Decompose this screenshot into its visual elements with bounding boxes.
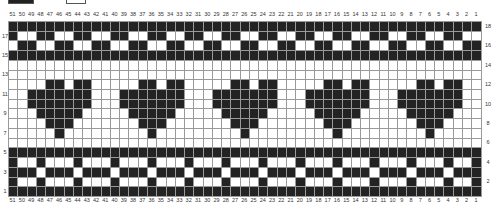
chart-cell [352,32,361,42]
chart-cell [37,119,46,129]
column-label: 12 [369,11,378,17]
chart-cell [176,41,185,51]
chart-cell [74,119,83,129]
chart-cell [407,129,416,139]
chart-cell [167,148,176,158]
chart-cell [463,32,472,42]
chart-cell [463,109,472,119]
column-label: 36 [147,197,156,203]
column-label: 26 [240,197,249,203]
chart-cell [65,119,74,129]
chart-cell [46,80,55,90]
chart-cell [65,100,74,110]
chart-cell [213,158,222,168]
chart-cell [259,158,268,168]
chart-cell [472,158,481,168]
chart-cell [435,129,444,139]
chart-cell [231,71,240,81]
column-label: 34 [166,11,175,17]
chart-cell [167,129,176,139]
chart-cell [398,41,407,51]
chart-cell [139,51,148,61]
chart-cell [389,139,398,149]
chart-cell [139,22,148,32]
chart-cell [398,168,407,178]
column-label: 14 [351,197,360,203]
chart-cell [28,109,37,119]
chart-cell [435,61,444,71]
column-label: 48 [36,197,45,203]
chart-cell [46,139,55,149]
chart-cell [74,100,83,110]
chart-cell [18,129,27,139]
chart-cell [222,90,231,100]
chart-cell [139,129,148,139]
chart-cell [83,80,92,90]
chart-cell [352,178,361,188]
chart-cell [18,41,27,51]
chart-cell [102,51,111,61]
chart-cell [343,51,352,61]
column-labels-top: 5150494847464544434241403938373635343332… [8,11,481,17]
chart-cell [407,158,416,168]
column-label: 7 [416,11,425,17]
column-label: 10 [388,11,397,17]
chart-cell [92,80,101,90]
chart-cell [241,139,250,149]
chart-cell [37,100,46,110]
chart-cell [111,71,120,81]
chart-cell [417,41,426,51]
chart-cell [426,158,435,168]
chart-cell [306,22,315,32]
chart-cell [37,178,46,188]
chart-cell [120,158,129,168]
chart-cell [426,148,435,158]
chart-cell [380,187,389,197]
chart-cell [176,158,185,168]
chart-cell [380,178,389,188]
chart-cell [333,61,342,71]
chart-cell [204,71,213,81]
chart-cell [407,139,416,149]
chart-cell [250,119,259,129]
chart-cell [361,178,370,188]
chart-cell [296,100,305,110]
chart-cell [194,109,203,119]
chart-cell [129,109,138,119]
chart-cell [231,32,240,42]
chart-cell [435,119,444,129]
chart-cell [83,90,92,100]
chart-cell [176,139,185,149]
chart-cell [129,71,138,81]
chart-cell [28,41,37,51]
chart-cell [352,129,361,139]
chart-cell [426,119,435,129]
chart-cell [148,32,157,42]
chart-cell [213,80,222,90]
chart-cell [222,51,231,61]
chart-cell [55,129,64,139]
chart-cell [454,158,463,168]
chart-cell [18,100,27,110]
column-label: 24 [258,197,267,203]
chart-cell [287,61,296,71]
chart-cell [435,51,444,61]
chart-cell [444,158,453,168]
chart-cell [65,109,74,119]
chart-cell [463,158,472,168]
chart-cell [370,61,379,71]
chart-cell [463,71,472,81]
chart-cell [333,41,342,51]
chart-cell [361,109,370,119]
chart-cell [111,32,120,42]
column-label: 33 [175,197,184,203]
row-label: 8 [483,118,493,128]
chart-cell [435,80,444,90]
chart-cell [28,119,37,129]
chart-cell [268,129,277,139]
chart-cell [176,109,185,119]
chart-cell [454,32,463,42]
chart-cell [324,158,333,168]
chart-cell [278,168,287,178]
chart-cell [148,41,157,51]
